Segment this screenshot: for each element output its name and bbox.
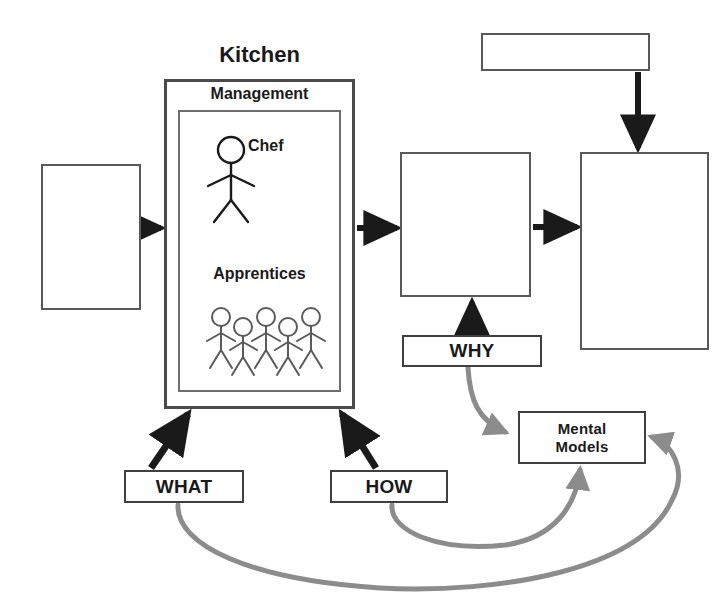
management-label: Management bbox=[178, 85, 341, 103]
chef-label: Chef bbox=[248, 137, 284, 155]
mental-models-box: Mental Models bbox=[518, 411, 646, 464]
what-box: WHAT bbox=[124, 470, 244, 503]
how-box: HOW bbox=[330, 470, 448, 503]
how-label: HOW bbox=[365, 476, 412, 498]
black-arrow-what-to-kitchen bbox=[151, 414, 188, 468]
mental-models-label-line2: Models bbox=[556, 438, 609, 456]
kitchen-title: Kitchen bbox=[164, 42, 355, 68]
why-box: WHY bbox=[402, 335, 542, 367]
gray-arrow-why-to-mental-models bbox=[468, 368, 505, 432]
blank-box-left bbox=[41, 164, 141, 310]
blank-box-middle bbox=[400, 152, 531, 297]
apprentices-label: Apprentices bbox=[178, 265, 341, 283]
mental-models-label-line1: Mental bbox=[558, 420, 607, 438]
black-arrow-how-to-kitchen bbox=[342, 414, 376, 468]
what-label: WHAT bbox=[156, 476, 212, 498]
diagram-canvas: Kitchen Management Chef Apprentices bbox=[0, 0, 718, 609]
why-label: WHY bbox=[450, 340, 495, 362]
blank-box-right bbox=[580, 152, 709, 350]
blank-box-top bbox=[481, 33, 650, 71]
